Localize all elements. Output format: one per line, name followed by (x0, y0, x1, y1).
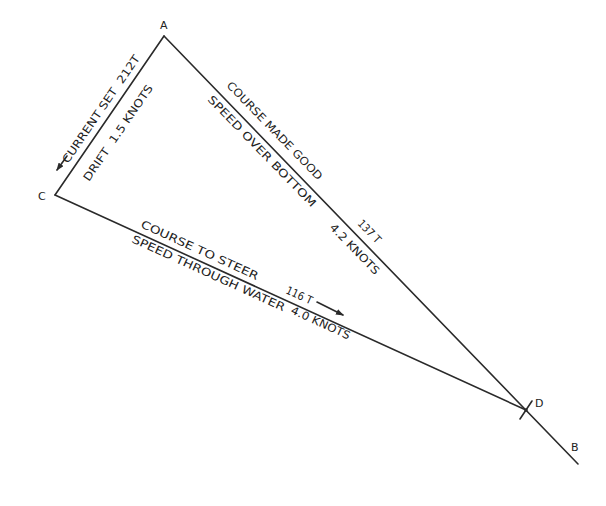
course-made-good-line-a-to-b (164, 36, 578, 464)
course-made-good-value: 137 T (355, 217, 384, 246)
speed-through-water-label: SPEED THROUGH WATER (130, 233, 288, 314)
current-line-a-to-c (55, 36, 164, 195)
course-direction-arrow-icon (317, 302, 343, 315)
point-label-a: A (160, 19, 168, 32)
point-label-d: D (535, 397, 543, 410)
speed-through-water-value: 4.0 KNOTS (289, 304, 353, 342)
point-label-c: C (38, 190, 46, 203)
course-to-steer-value: 116 T (284, 284, 315, 308)
point-label-b: B (571, 441, 579, 454)
point-d-dot (524, 408, 528, 412)
current-triangle-diagram: A C D B CURRENT SET 212T DRIFT 1.5 KNOTS… (0, 0, 606, 506)
course-to-steer-line-c-to-d (55, 195, 526, 410)
